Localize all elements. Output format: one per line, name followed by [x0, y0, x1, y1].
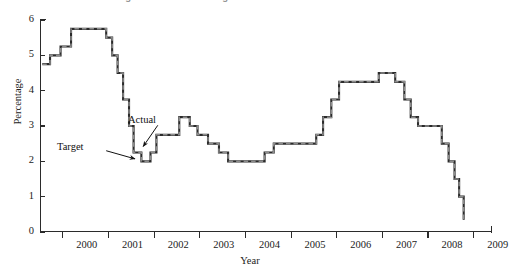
annotation-target-label: Target	[57, 141, 83, 152]
annotation-arrow-target	[106, 151, 135, 159]
series-line-target	[42, 29, 463, 220]
series-line-actual	[42, 29, 463, 220]
annotation-actual-label: Actual	[128, 114, 156, 125]
